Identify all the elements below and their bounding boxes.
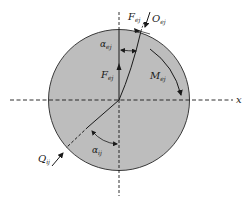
- ball-force-diagram: Fej Oej αej Fej Mej x Qij αij: [0, 0, 243, 201]
- o-force-arrow: [145, 12, 150, 27]
- contact-bottom-label: Qij: [38, 153, 50, 166]
- force-top-label: Fej: [127, 11, 141, 24]
- x-axis-label: x: [236, 94, 242, 105]
- contact-top-label: Oej: [152, 13, 166, 26]
- q-force-arrow: [52, 153, 63, 166]
- outer-contact-line-dashed-ext: [141, 22, 144, 31]
